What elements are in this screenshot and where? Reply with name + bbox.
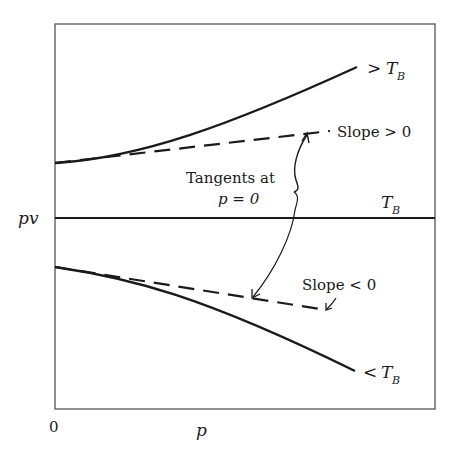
boyle-label: T B xyxy=(381,192,400,217)
above-boyle-curve xyxy=(55,67,357,163)
tangents-annotation-line2: p = 0 xyxy=(218,190,260,208)
lower-pointer-curve xyxy=(253,192,298,297)
above-boyle-label: > T B xyxy=(367,58,405,83)
plot-frame xyxy=(55,24,435,409)
origin-label: 0 xyxy=(49,418,59,436)
slope-positive-label: Slope > 0 xyxy=(337,123,411,141)
svg-text:>: > xyxy=(367,58,381,78)
slope-negative-pointer xyxy=(327,298,336,309)
svg-text:B: B xyxy=(391,374,400,387)
x-axis-label: p xyxy=(196,420,207,440)
slope-negative-label: Slope < 0 xyxy=(302,276,376,294)
below-boyle-label: < T B xyxy=(363,362,400,387)
tangents-annotation-line1: Tangents at xyxy=(186,169,275,187)
svg-text:<: < xyxy=(363,362,377,382)
y-axis-label: pv xyxy=(18,208,39,228)
svg-text:B: B xyxy=(396,70,405,83)
pv-diagram: pv p 0 > T B T B < T B Slope > 0 Slope <… xyxy=(0,0,456,452)
upper-pointer-curve xyxy=(294,135,307,192)
svg-text:B: B xyxy=(391,204,400,217)
